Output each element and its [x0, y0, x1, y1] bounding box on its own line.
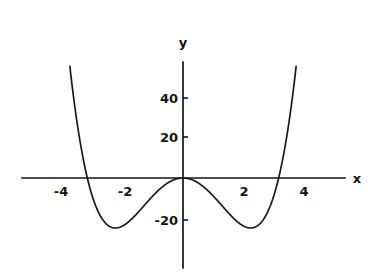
y-tick-label-20: 20 [160, 130, 178, 145]
function-plot-figure: 40 20 -20 -4 -2 2 4 x y [0, 0, 381, 274]
x-tick-label-2: 2 [239, 184, 248, 199]
x-tick-label-4: 4 [299, 184, 308, 199]
x-axis-label: x [353, 171, 362, 186]
x-tick-label-minus-4: -4 [54, 184, 68, 199]
y-axis-label: y [179, 35, 188, 50]
plot-canvas: 40 20 -20 -4 -2 2 4 x y [0, 0, 381, 274]
y-tick-label-minus-20: -20 [155, 213, 179, 228]
x-tick-label-minus-2: -2 [118, 184, 132, 199]
y-tick-label-40: 40 [160, 91, 178, 106]
